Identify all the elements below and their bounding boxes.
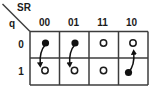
cell-marker-11-0 xyxy=(100,40,106,46)
kmap-figure: SR q 00 01 11 10 0 1 xyxy=(0,0,151,97)
cell-marker-01-0 xyxy=(71,39,78,46)
kmap-canvas xyxy=(0,0,151,97)
grid-lines xyxy=(30,32,148,86)
cell-marker-11-1 xyxy=(100,67,106,73)
header-divider-diagonal xyxy=(3,4,31,32)
transition-arrow-col-01 xyxy=(70,45,75,65)
cell-marker-10-0 xyxy=(130,40,136,46)
cell-marker-00-0 xyxy=(42,39,49,46)
cell-marker-01-1 xyxy=(71,67,77,73)
transition-arrow-col-00 xyxy=(40,45,45,65)
cell-marker-00-1 xyxy=(42,67,48,73)
cell-marker-10-1 xyxy=(125,69,132,76)
